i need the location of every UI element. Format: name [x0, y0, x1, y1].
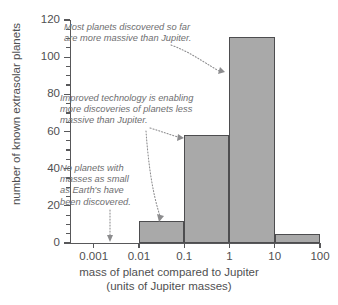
chart-figure: number of known extrasolar planets 02040… [0, 0, 338, 305]
annotation-leader-lines [0, 0, 338, 305]
